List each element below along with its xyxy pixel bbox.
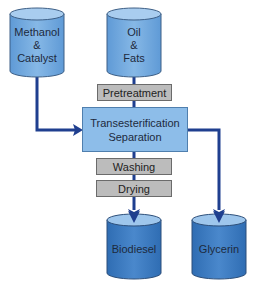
label-line: Catalyst [10,52,64,65]
step-label: Washing [113,161,155,173]
input-methanol-label: Methanol & Catalyst [10,26,64,65]
output-glycerin-label: Glycerin [192,243,246,256]
label-line: & [10,39,64,52]
step-pretreatment: Pretreatment [97,84,172,101]
label-line: & [107,39,161,52]
label-line: Oil [107,26,161,39]
step-washing: Washing [96,158,172,175]
label-line: Methanol [10,26,64,39]
step-label: Transesterification [90,116,179,130]
input-oil-label: Oil & Fats [107,26,161,65]
step-label: Pretreatment [103,87,167,99]
label-line: Fats [107,52,161,65]
step-label: Separation [108,130,161,144]
output-biodiesel-label: Biodiesel [107,243,161,256]
edge-methanol-to-process [37,77,76,130]
step-label: Drying [118,183,150,195]
step-transesterification-separation: Transesterification Separation [82,107,188,152]
step-drying: Drying [96,180,172,197]
edge-process-to-glycerin [188,130,219,210]
